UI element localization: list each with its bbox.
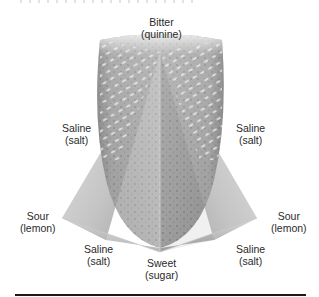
taste-name: Sour (20, 210, 56, 222)
taste-substance: (lemon) (20, 222, 56, 234)
label-bitter: Bitter (quinine) (141, 16, 182, 40)
taste-substance: (sugar) (145, 269, 178, 281)
taste-name: Sweet (145, 257, 178, 269)
label-saline-upper-left: Saline (salt) (62, 122, 91, 146)
taste-substance: (lemon) (271, 222, 307, 234)
taste-substance: (salt) (236, 134, 265, 146)
label-sour-left: Sour (lemon) (20, 210, 56, 234)
label-saline-lower-right: Saline (salt) (236, 243, 265, 267)
taste-substance: (salt) (62, 134, 91, 146)
taste-substance: (salt) (236, 255, 265, 267)
taste-substance: (salt) (84, 255, 113, 267)
taste-name: Saline (62, 122, 91, 134)
taste-substance: (quinine) (141, 28, 182, 40)
taste-name: Saline (236, 243, 265, 255)
taste-name: Saline (84, 243, 113, 255)
taste-name: Bitter (141, 16, 182, 28)
bottom-rule-divider (15, 294, 306, 296)
label-sour-right: Sour (lemon) (271, 210, 307, 234)
label-saline-lower-left: Saline (salt) (84, 243, 113, 267)
taste-tongue-diagram: Bitter (quinine) Saline (salt) Saline (s… (0, 0, 319, 297)
taste-name: Saline (236, 122, 265, 134)
tongue-pyramid-illustration (0, 0, 319, 297)
label-saline-upper-right: Saline (salt) (236, 122, 265, 146)
label-sweet: Sweet (sugar) (145, 257, 178, 281)
taste-name: Sour (271, 210, 307, 222)
